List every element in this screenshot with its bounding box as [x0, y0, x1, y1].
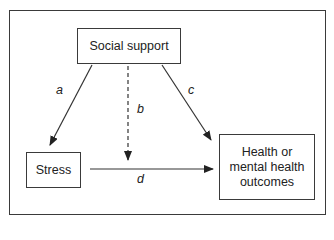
path-c-arrow — [162, 65, 211, 140]
path-a-arrow — [50, 65, 92, 145]
stress-label: Stress — [36, 163, 71, 178]
outcomes-label-line3: outcomes — [240, 175, 294, 190]
outcomes-label-line2: mental health — [229, 160, 304, 175]
node-outcomes: Health or mental health outcomes — [219, 134, 315, 200]
outcomes-label-line1: Health or — [242, 145, 293, 160]
node-social-support: Social support — [77, 28, 181, 64]
node-stress: Stress — [26, 152, 81, 188]
path-c-label: c — [188, 83, 194, 97]
social-support-label: Social support — [89, 39, 168, 54]
path-a-label: a — [56, 83, 63, 97]
path-d-label: d — [137, 172, 144, 186]
path-b-label: b — [137, 102, 144, 116]
